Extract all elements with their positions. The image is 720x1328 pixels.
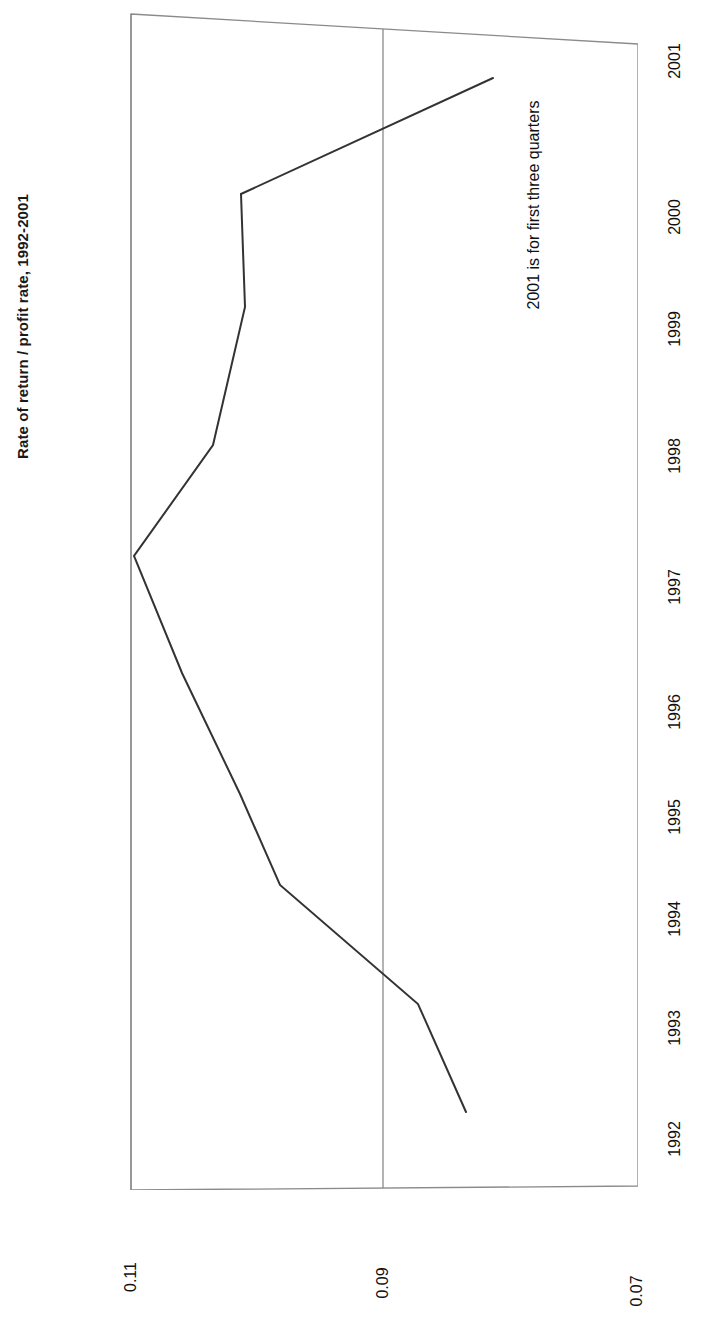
chart-page: Rate of return / profit rate, 1992-2001 … xyxy=(0,0,720,1328)
page-title: Rate of return / profit rate, 1992-2001 xyxy=(14,117,31,537)
plot-svg xyxy=(45,8,638,1190)
year-tick-1994: 1994 xyxy=(666,890,684,948)
year-tick-1996: 1996 xyxy=(666,683,684,741)
year-tick-1998: 1998 xyxy=(666,427,684,485)
year-tick-1993: 1993 xyxy=(666,999,684,1057)
plot-area xyxy=(45,8,638,1190)
value-tick-0-11: 0.11 xyxy=(122,1247,140,1307)
year-tick-1992: 1992 xyxy=(666,1110,684,1168)
plot-border xyxy=(131,14,638,1190)
year-tick-2001: 2001 xyxy=(666,32,684,90)
year-tick-1997: 1997 xyxy=(666,558,684,616)
year-tick-1999: 1999 xyxy=(666,300,684,358)
year-tick-2000: 2000 xyxy=(666,188,684,246)
year-tick-1995: 1995 xyxy=(666,788,684,846)
value-tick-0-09: 0.09 xyxy=(374,1253,392,1313)
value-tick-0-07: 0.07 xyxy=(628,1261,646,1321)
chart-annotation: 2001 is for first three quarters xyxy=(525,60,543,350)
